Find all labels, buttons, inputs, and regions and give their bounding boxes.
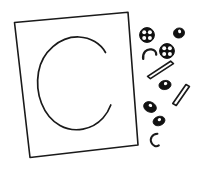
curved-macaroni-icon bbox=[151, 134, 159, 146]
card-outline bbox=[15, 12, 139, 157]
drawing-canvas: Hand-drawn letter C on a tilted card wit… bbox=[0, 0, 198, 170]
dark-oval-blob-icon bbox=[172, 27, 185, 40]
round-seeded-slice-icon bbox=[140, 28, 155, 43]
round-seeded-slice-icon bbox=[160, 44, 175, 59]
card-group bbox=[15, 12, 139, 157]
line-art-illustration bbox=[0, 0, 198, 170]
letter-c-stroke bbox=[38, 37, 111, 130]
dark-oval-blob-icon bbox=[152, 115, 167, 128]
curved-macaroni-icon bbox=[143, 49, 156, 59]
letter-c-group bbox=[38, 37, 111, 130]
ingredients-group bbox=[140, 27, 190, 147]
thin-stick-icon bbox=[148, 61, 174, 78]
dark-oval-blob-icon bbox=[142, 100, 158, 115]
dark-oval-blob-icon bbox=[158, 79, 172, 90]
thin-stick-icon bbox=[173, 85, 190, 106]
